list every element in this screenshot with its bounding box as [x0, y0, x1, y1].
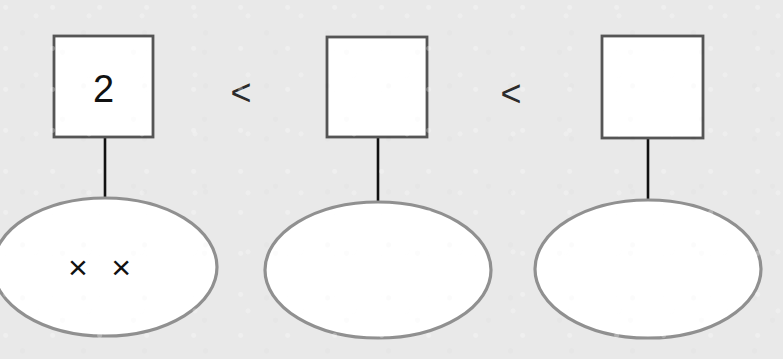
- less-than-icon-1: <: [230, 72, 251, 113]
- tally-ellipse-3[interactable]: [535, 200, 761, 338]
- diagram-svg: 2 × × < <: [0, 0, 783, 359]
- tally-ellipse-1-marks: × ×: [68, 248, 138, 286]
- number-box-3[interactable]: [602, 36, 703, 138]
- less-than-icon-2: <: [500, 73, 521, 114]
- tally-ellipse-2[interactable]: [265, 202, 491, 338]
- diagram-canvas: 2 × × < <: [0, 0, 783, 359]
- comparison-group-2: [265, 37, 491, 338]
- number-box-1-value: 2: [93, 68, 114, 110]
- number-box-2[interactable]: [327, 37, 427, 137]
- comparison-group-3: [535, 36, 761, 338]
- comparison-group-1: 2 × ×: [0, 36, 217, 336]
